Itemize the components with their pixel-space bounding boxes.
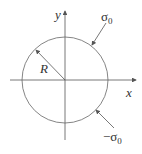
top-load-subscript: 0 — [108, 16, 113, 26]
top-load-arrow — [92, 23, 106, 45]
top-load-label: σ0 — [101, 10, 113, 26]
radius-label: R — [40, 62, 48, 75]
top-load-symbol: σ — [101, 9, 108, 24]
y-axis-label: y — [55, 8, 61, 21]
diagram-canvas: y x R σ0 −σ0 — [0, 0, 142, 154]
x-axis-label: x — [126, 86, 132, 99]
bottom-load-label: −σ0 — [103, 130, 122, 146]
bottom-load-symbol: −σ — [103, 129, 117, 144]
bottom-load-arrow — [96, 110, 114, 128]
bottom-load-subscript: 0 — [117, 136, 122, 146]
